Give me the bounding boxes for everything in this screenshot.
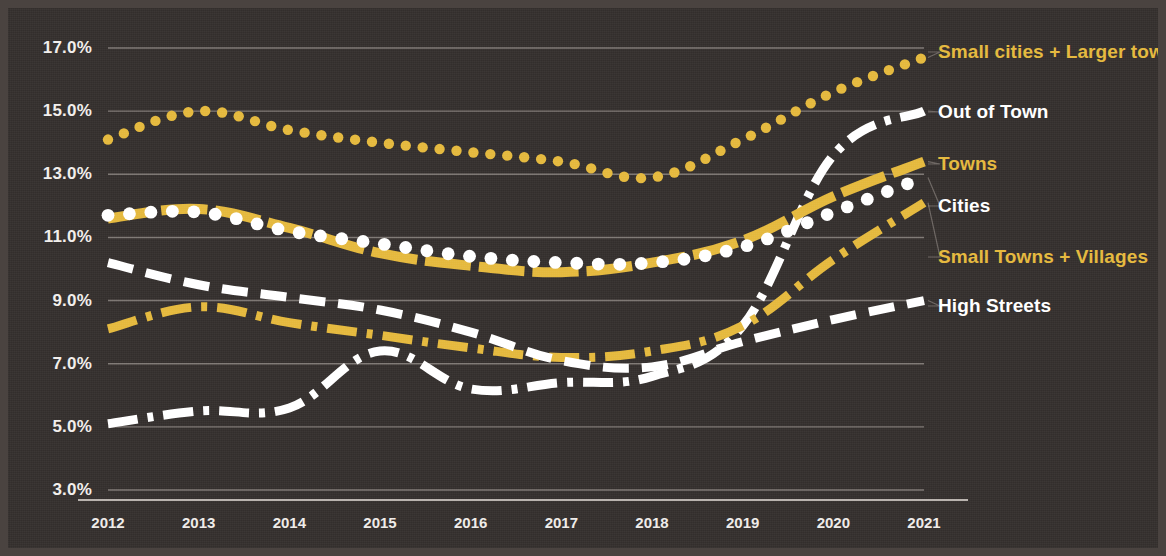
legend-item-small-cities-larger-towns: Small cities + Larger towns (938, 41, 1158, 63)
y-axis-tick-label: 9.0% (20, 291, 92, 311)
line-chart-svg (8, 8, 1158, 548)
y-axis-tick-label: 13.0% (20, 164, 92, 184)
y-axis-tick-label: 15.0% (20, 101, 92, 121)
x-axis-tick-label: 2017 (526, 514, 596, 531)
x-axis-tick-label: 2019 (708, 514, 778, 531)
series-layer (102, 53, 926, 423)
series-small-towns-villages (108, 203, 924, 358)
y-axis-tick-label: 11.0% (20, 227, 92, 247)
series-small-cities-larger-towns (103, 53, 926, 183)
x-axis-tick-label: 2013 (164, 514, 234, 531)
legend-item-small-towns-villages: Small Towns + Villages (938, 246, 1148, 268)
x-axis-tick-label: 2018 (617, 514, 687, 531)
legend-item-out-of-town: Out of Town (938, 101, 1049, 123)
y-axis-tick-label: 17.0% (20, 38, 92, 58)
legend-item-high-streets: High Streets (938, 295, 1051, 317)
x-axis-tick-label: 2015 (345, 514, 415, 531)
x-axis-tick-label: 2012 (73, 514, 143, 531)
x-axis-tick-label: 2021 (889, 514, 959, 531)
x-axis-tick-label: 2020 (798, 514, 868, 531)
chart-frame: 17.0%15.0%13.0%11.0%9.0%7.0%5.0%3.0% 201… (0, 0, 1166, 556)
legend-item-towns: Towns (938, 153, 997, 175)
legend-item-cities: Cities (938, 195, 990, 217)
y-axis-tick-label: 3.0% (20, 480, 92, 500)
x-axis-tick-label: 2016 (436, 514, 506, 531)
y-axis-tick-label: 5.0% (20, 417, 92, 437)
y-axis-tick-label: 7.0% (20, 354, 92, 374)
x-axis-tick-label: 2014 (254, 514, 324, 531)
chart-canvas: 17.0%15.0%13.0%11.0%9.0%7.0%5.0%3.0% 201… (8, 8, 1158, 548)
